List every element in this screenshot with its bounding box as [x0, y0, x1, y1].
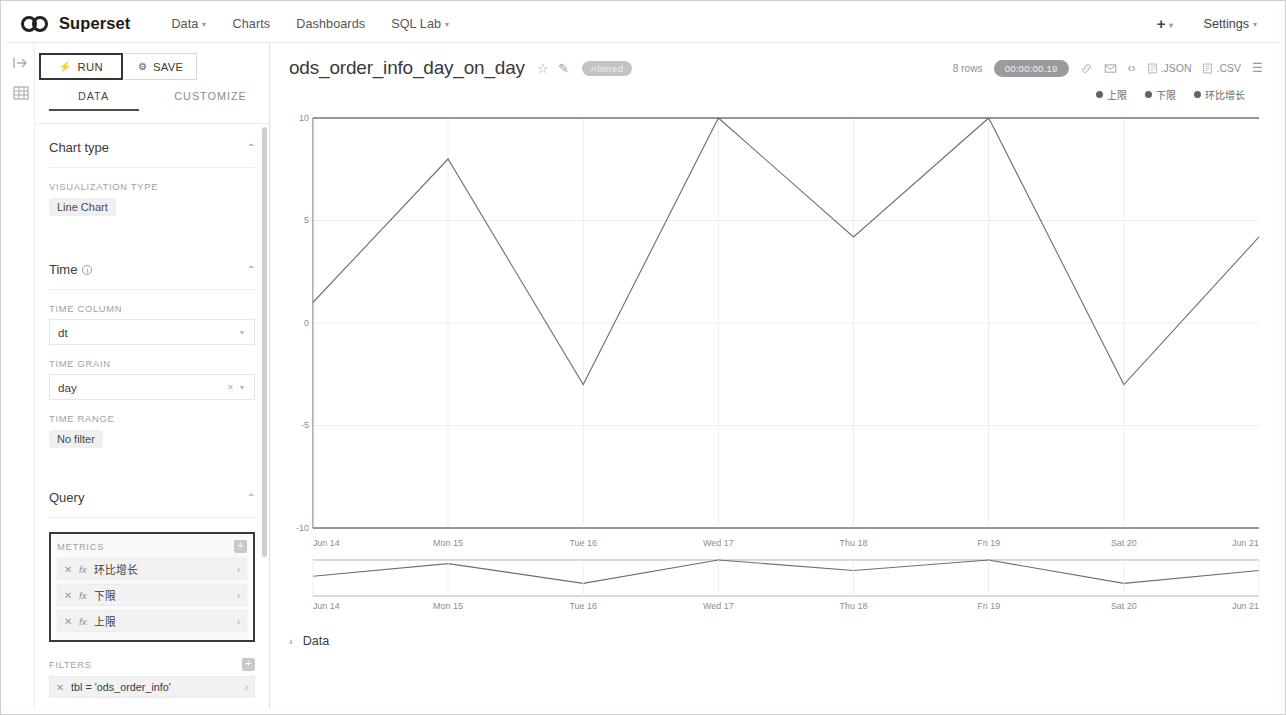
remove-icon[interactable]: ✕ [64, 616, 72, 627]
top-navbar: Superset Data▾ Charts Dashboards SQL Lab… [7, 5, 1279, 43]
email-icon[interactable] [1104, 62, 1117, 75]
nav-item-charts[interactable]: Charts [220, 11, 284, 37]
time-grain-value: day [58, 381, 77, 394]
y-axis-tick: -5 [301, 420, 309, 430]
nav-item-dashboards[interactable]: Dashboards [283, 11, 378, 37]
info-icon[interactable]: i [82, 265, 92, 275]
query-timer-badge: 00:00:00.19 [994, 60, 1069, 77]
chevron-down-icon: ▾ [445, 20, 449, 29]
line-chart-plot[interactable]: 1050-5-10Jun 14Mon 15Tue 16Wed 17Thu 18F… [287, 106, 1263, 554]
y-axis-tick: 10 [299, 113, 309, 123]
function-icon: fx [79, 590, 87, 601]
time-column-select[interactable]: dt ▾ [49, 319, 255, 345]
filters-header: FILTERS + [49, 658, 255, 671]
link-icon[interactable] [1080, 62, 1093, 75]
add-new-button[interactable]: +▾ [1151, 11, 1180, 36]
edit-icon[interactable]: ✎ [558, 61, 569, 76]
settings-menu[interactable]: Settings▾ [1193, 13, 1267, 35]
data-collapse-toggle[interactable]: › Data [289, 634, 1279, 648]
x-axis-tick: Sat 20 [1111, 538, 1137, 548]
section-time[interactable]: Time i ⌃ [49, 246, 255, 290]
filter-token[interactable]: ✕ tbl = 'ods_order_info' › [49, 676, 255, 698]
save-button[interactable]: ⚙ SAVE [125, 53, 197, 80]
legend-item-lower[interactable]: 下限 [1145, 87, 1176, 102]
left-rail [7, 45, 35, 708]
time-grain-select[interactable]: day ✕ ▾ [49, 374, 255, 400]
nav-item-sql-lab-label: SQL Lab [391, 17, 441, 31]
add-filter-button[interactable]: + [242, 658, 255, 671]
field-time-range: TIME RANGE No filter [49, 413, 255, 448]
panel-action-bar: ⚡ RUN ⚙ SAVE [39, 45, 265, 80]
nav-item-sql-lab[interactable]: SQL Lab▾ [378, 11, 462, 37]
brush-x-axis-tick: Jun 21 [1232, 601, 1259, 611]
chevron-up-icon: ⌃ [247, 264, 255, 275]
metric-token[interactable]: ✕ fx 上限 › [57, 610, 247, 632]
star-icon[interactable]: ☆ [537, 61, 549, 76]
legend-item-growth[interactable]: 环比增长 [1194, 87, 1245, 102]
tab-customize[interactable]: CUSTOMIZE [152, 90, 269, 111]
field-time-column: TIME COLUMN dt ▾ [49, 303, 255, 345]
time-range-label: TIME RANGE [49, 413, 255, 424]
save-button-label: SAVE [153, 61, 184, 73]
chevron-right-icon: › [237, 590, 240, 601]
navbar-right: +▾ Settings▾ [1151, 11, 1267, 36]
code-icon[interactable]: ‹› [1128, 61, 1136, 75]
tab-data[interactable]: DATA [35, 90, 152, 111]
time-grain-label: TIME GRAIN [49, 358, 255, 369]
table-icon[interactable] [13, 85, 29, 101]
status-badge[interactable]: Altered [582, 61, 633, 76]
field-visualization-type: VISUALIZATION TYPE Line Chart [49, 181, 255, 216]
run-button[interactable]: ⚡ RUN [39, 53, 123, 80]
time-column-label: TIME COLUMN [49, 303, 255, 314]
metric-label: 下限 [94, 587, 230, 603]
x-axis-tick: Jun 14 [313, 538, 340, 548]
download-json-button[interactable]: .JSON [1147, 62, 1192, 74]
visualization-type-value[interactable]: Line Chart [49, 198, 116, 216]
time-column-value: dt [58, 326, 68, 339]
function-icon: fx [79, 616, 87, 627]
metric-token[interactable]: ✕ fx 下限 › [57, 584, 247, 606]
json-label: .JSON [1161, 62, 1192, 74]
section-query-title: Query [49, 490, 84, 505]
panel-scrollbar[interactable] [262, 127, 267, 557]
filters-group: FILTERS + ✕ tbl = 'ods_order_info' › [49, 658, 255, 698]
metric-token[interactable]: ✕ fx 环比增长 › [57, 558, 247, 580]
chevron-right-icon: › [237, 616, 240, 627]
file-icon [1147, 63, 1158, 74]
metrics-group: METRICS + ✕ fx 环比增长 › ✕ fx 下限 › ✕ fx [49, 532, 255, 642]
x-axis-tick: Mon 15 [433, 538, 463, 548]
legend-item-upper[interactable]: 上限 [1096, 87, 1127, 102]
csv-label: .CSV [1216, 62, 1241, 74]
chart-legend: 上限 下限 环比增长 [271, 83, 1279, 102]
remove-icon[interactable]: ✕ [56, 682, 64, 693]
row-count-label: 8 rows [953, 63, 983, 74]
nav-item-data-label: Data [171, 17, 198, 31]
add-metric-button[interactable]: + [234, 540, 247, 553]
menu-icon[interactable]: ☰ [1252, 61, 1263, 75]
brush-chart-svg[interactable]: Jun 14Mon 15Tue 16Wed 17Thu 18Fri 19Sat … [287, 554, 1263, 612]
x-axis-tick: Thu 18 [840, 538, 868, 548]
brand-name: Superset [59, 14, 130, 33]
line-chart-svg[interactable]: 1050-5-10Jun 14Mon 15Tue 16Wed 17Thu 18F… [287, 106, 1263, 554]
y-axis-tick: 0 [304, 318, 309, 328]
brush-series-line-2 [313, 560, 1259, 583]
section-chart-type-title: Chart type [49, 140, 109, 155]
chevron-down-icon: ▾ [240, 328, 246, 337]
remove-icon[interactable]: ✕ [64, 564, 72, 575]
nav-links: Data▾ Charts Dashboards SQL Lab▾ [158, 11, 462, 37]
brush-x-axis-tick: Thu 18 [840, 601, 868, 611]
series-line-2 [313, 118, 1259, 385]
nav-item-data[interactable]: Data▾ [158, 11, 219, 37]
bolt-icon: ⚡ [59, 61, 71, 72]
remove-icon[interactable]: ✕ [64, 590, 72, 601]
brand[interactable]: Superset [21, 14, 130, 33]
collapse-panel-icon[interactable] [13, 55, 29, 71]
run-button-label: RUN [77, 61, 102, 73]
section-chart-type[interactable]: Chart type ⌃ [49, 124, 255, 168]
section-query[interactable]: Query ⌃ [49, 474, 255, 518]
chevron-up-icon: ⌃ [247, 142, 255, 153]
brush-chart[interactable]: Jun 14Mon 15Tue 16Wed 17Thu 18Fri 19Sat … [287, 554, 1263, 612]
brush-x-axis-tick: Wed 17 [703, 601, 734, 611]
time-range-value[interactable]: No filter [49, 430, 103, 448]
download-csv-button[interactable]: .CSV [1202, 62, 1241, 74]
